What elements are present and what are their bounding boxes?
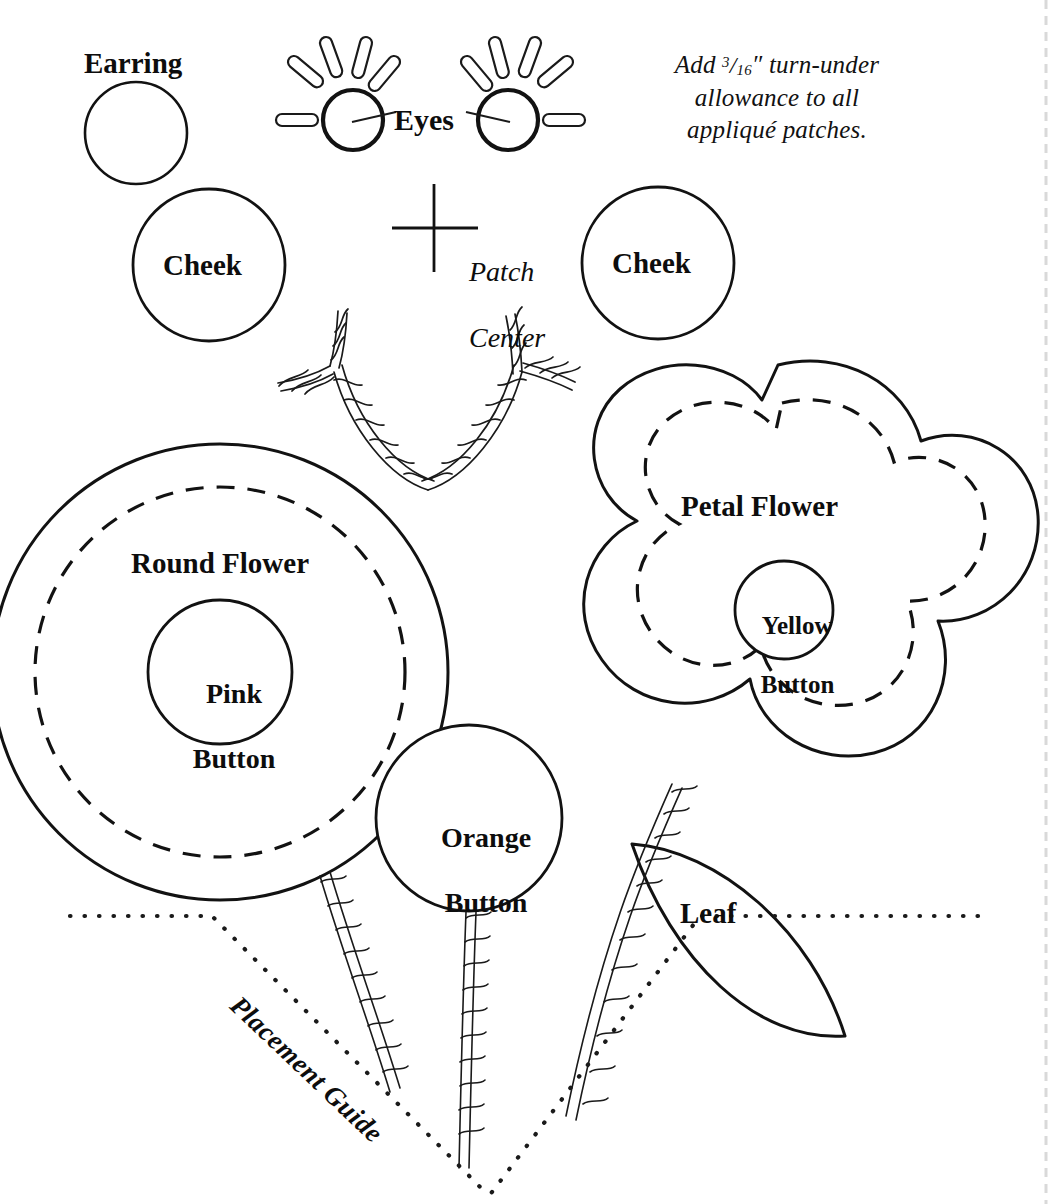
eye-left-patch xyxy=(276,35,402,150)
leaf-label: Leaf xyxy=(680,897,736,929)
round-flower-label: Round Flower xyxy=(131,547,309,579)
note-fraction-bar: / xyxy=(730,52,737,78)
eye-right-outline xyxy=(478,90,538,150)
note-line1-post: ″ turn-under xyxy=(752,51,879,78)
note-line3: appliqué patches. xyxy=(687,116,867,143)
turn-under-allowance-note: Add 3/16″ turn-under allowance to all ap… xyxy=(636,49,918,147)
note-line1-pre: Add xyxy=(675,51,722,78)
eye-right-patch xyxy=(459,35,585,150)
note-fraction: 3/16 xyxy=(722,52,752,78)
yellow-button-label-line2: Button xyxy=(761,671,835,698)
eyes-label: Eyes xyxy=(394,103,454,137)
patch-center-label: Patch Center xyxy=(441,222,545,387)
note-fraction-numerator: 3 xyxy=(722,54,730,70)
cheek-left-label: Cheek xyxy=(163,249,242,281)
yellow-button-label-line1: Yellow xyxy=(762,612,833,639)
patch-center-label-line2: Center xyxy=(469,322,545,353)
note-fraction-denominator: 16 xyxy=(737,62,752,78)
note-line2: allowance to all xyxy=(695,84,859,111)
cheek-right-label: Cheek xyxy=(612,247,691,279)
orange-button-label-line2: Button xyxy=(445,887,527,918)
stem-cord-left xyxy=(320,872,408,1092)
pattern-artwork xyxy=(0,0,1060,1204)
patch-center-label-line1: Patch xyxy=(469,256,534,287)
leaf-outline xyxy=(632,844,845,1036)
pink-button-label: Pink Button xyxy=(150,645,290,809)
eye-left-outline xyxy=(323,90,383,150)
orange-button-label: Orange Button xyxy=(399,789,545,953)
yellow-button-label: Yellow Button xyxy=(719,582,851,728)
pink-button-label-line1: Pink xyxy=(206,678,262,709)
earring-patch-outline xyxy=(85,82,187,184)
placement-guide-line xyxy=(70,916,978,1196)
earring-label: Earring xyxy=(84,47,182,79)
stem-cord-right xyxy=(566,784,697,1120)
pink-button-label-line2: Button xyxy=(193,743,275,774)
pattern-sheet: Earring Eyes Add 3/16″ turn-under allowa… xyxy=(0,0,1060,1204)
orange-button-label-line1: Orange xyxy=(441,822,531,853)
petal-flower-label: Petal Flower xyxy=(681,490,838,522)
